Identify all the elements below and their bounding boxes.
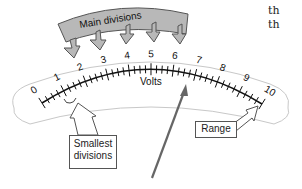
side-text-line2: th <box>268 18 280 31</box>
smallest-label-line1: Smallest <box>70 138 116 150</box>
scale-number: 7 <box>195 54 203 66</box>
meter-face-svg: 012345678910 Main divisions Volts <box>0 0 302 189</box>
scale-number: 4 <box>124 49 131 61</box>
smallest-divisions-label: Smallest divisions <box>69 135 117 169</box>
smallest-label-line2: divisions <box>70 150 116 162</box>
smallest-divisions-bracket <box>64 98 76 103</box>
scale-number: 0 <box>28 84 39 97</box>
scale-number: 3 <box>99 53 107 65</box>
meter-needle <box>152 92 184 178</box>
major-tick <box>237 86 242 97</box>
scale-numbers: 012345678910 <box>28 48 278 98</box>
side-text-line1: th <box>268 4 280 17</box>
minor-tick <box>134 66 135 74</box>
major-tick <box>259 99 265 109</box>
smallest-divisions-arrow <box>70 103 98 135</box>
scale-number: 5 <box>148 48 154 59</box>
range-label: Range <box>195 121 237 138</box>
scale-number: 6 <box>172 50 179 62</box>
volts-label: Volts <box>140 76 162 87</box>
scale-number: 1 <box>52 71 62 84</box>
major-tick <box>61 85 66 96</box>
minor-tick <box>178 68 179 76</box>
scale-number: 8 <box>218 61 227 73</box>
major-tick <box>39 98 45 108</box>
minor-tick <box>167 66 168 74</box>
minor-tick <box>123 67 124 75</box>
needle-tip <box>180 84 188 96</box>
scale-number: 10 <box>263 83 279 98</box>
minor-tick <box>162 66 163 74</box>
minor-tick <box>117 68 118 76</box>
major-tick <box>128 65 129 77</box>
scale-number: 2 <box>75 60 84 72</box>
voltmeter-diagram: 012345678910 Main divisions Volts Smalle… <box>0 0 302 189</box>
